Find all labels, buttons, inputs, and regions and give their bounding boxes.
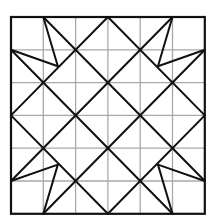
quilt-pattern-diagram bbox=[0, 0, 217, 223]
